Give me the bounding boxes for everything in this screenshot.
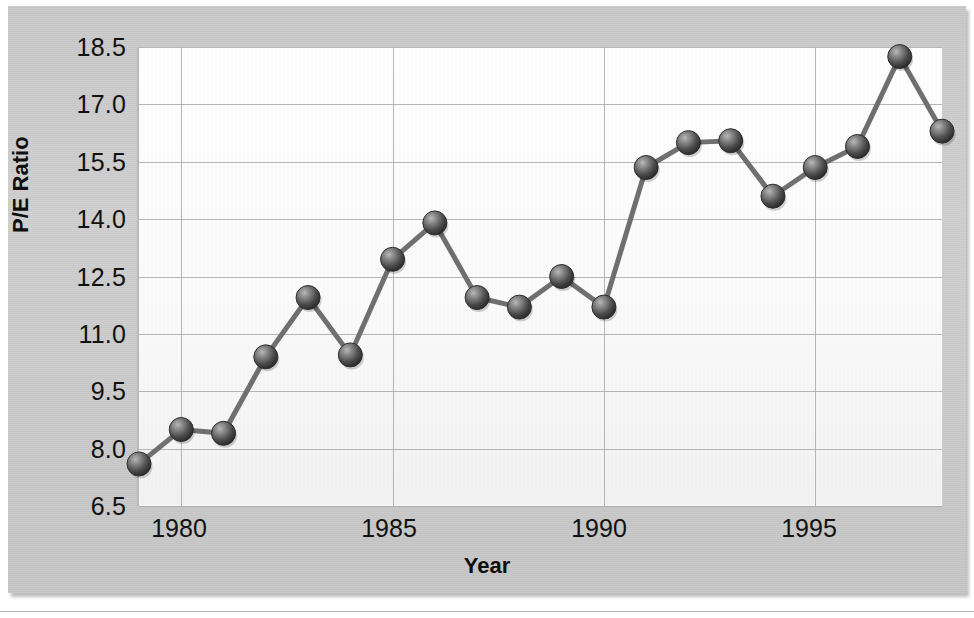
data-point-marker[interactable]	[930, 119, 954, 143]
series-polyline	[139, 57, 942, 464]
x-tick-label: 1990	[571, 516, 627, 541]
data-point-marker[interactable]	[676, 131, 700, 155]
gridline-horizontal	[139, 506, 942, 507]
data-point-marker[interactable]	[212, 421, 236, 445]
data-point-marker[interactable]	[254, 345, 278, 369]
data-point-marker[interactable]	[550, 265, 574, 289]
data-point-marker[interactable]	[719, 129, 743, 153]
y-tick-label: 9.5	[16, 379, 126, 404]
y-tick-label: 14.0	[16, 207, 126, 232]
y-tick-label: 12.5	[16, 264, 126, 289]
data-point-marker[interactable]	[888, 45, 912, 69]
x-tick-label: 1995	[781, 516, 837, 541]
x-tick-label: 1985	[361, 516, 417, 541]
data-point-marker[interactable]	[634, 155, 658, 179]
data-point-marker[interactable]	[465, 286, 489, 310]
chart-page: P/E Ratio 18.5 17.0 15.5 14.0 12.5 11.0 …	[0, 0, 974, 618]
data-point-marker[interactable]	[338, 343, 362, 367]
data-point-marker[interactable]	[507, 295, 531, 319]
data-series-line	[139, 47, 942, 506]
data-point-marker[interactable]	[845, 134, 869, 158]
y-axis-ticks: 18.5 17.0 15.5 14.0 12.5 11.0 9.5 8.0 6.…	[8, 47, 126, 506]
y-tick-label: 18.5	[16, 35, 126, 60]
data-point-marker[interactable]	[127, 452, 151, 476]
plot-area	[137, 47, 942, 506]
data-point-marker[interactable]	[296, 286, 320, 310]
y-tick-label: 17.0	[16, 92, 126, 117]
x-axis-ticks: 1980 1985 1990 1995	[0, 516, 974, 550]
data-point-marker[interactable]	[423, 211, 447, 235]
footer-rule	[0, 611, 974, 612]
x-axis-title: Year	[0, 553, 974, 579]
data-point-marker[interactable]	[381, 247, 405, 271]
x-tick-label: 1980	[151, 516, 207, 541]
y-tick-label: 11.0	[16, 321, 126, 346]
data-point-marker[interactable]	[592, 295, 616, 319]
y-tick-label: 8.0	[16, 436, 126, 461]
data-point-marker[interactable]	[803, 155, 827, 179]
y-tick-label: 6.5	[16, 494, 126, 519]
data-point-marker[interactable]	[761, 184, 785, 208]
y-tick-label: 15.5	[16, 149, 126, 174]
data-point-marker[interactable]	[169, 418, 193, 442]
